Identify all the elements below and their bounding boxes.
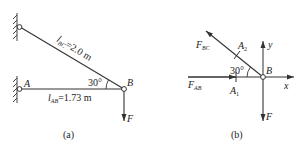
angle-arc-b [247, 67, 251, 77]
figure-b: FBC A2 30° B x y FAB A1 F (b) [187, 31, 294, 141]
label-force-ab: FAB [187, 79, 202, 91]
label-point-a: A [23, 78, 31, 89]
label-point-b-fbd: B [266, 65, 272, 76]
label-axis-x: x [283, 80, 289, 91]
pin-a [17, 87, 22, 92]
label-rod-ab: lAB=1.73 m [48, 92, 92, 104]
wall-support-lower [13, 76, 17, 103]
pin-b-fbd [261, 75, 266, 80]
statics-diagram: A B 30° lBC=2.0 m lAB=1.73 m F (a) [0, 0, 299, 154]
label-section-a2: A2 [237, 40, 247, 52]
label-angle-a: 30° [88, 77, 102, 88]
wall-support-upper [13, 13, 17, 41]
caption-b: (b) [231, 129, 243, 141]
pin-b [122, 87, 127, 92]
pin-c [17, 25, 22, 30]
label-point-b: B [127, 77, 133, 88]
label-force-bc: FBC [195, 39, 211, 51]
label-force-a: F [126, 113, 134, 124]
label-section-a1: A1 [229, 85, 239, 97]
label-force-b: F [265, 111, 273, 122]
label-axis-y: y [267, 39, 273, 50]
caption-a: (a) [63, 129, 74, 141]
angle-arc-a [106, 80, 109, 89]
figure-a: A B 30° lBC=2.0 m lAB=1.73 m F (a) [13, 13, 134, 141]
rod-bc [20, 27, 124, 89]
label-angle-b: 30° [230, 65, 244, 76]
